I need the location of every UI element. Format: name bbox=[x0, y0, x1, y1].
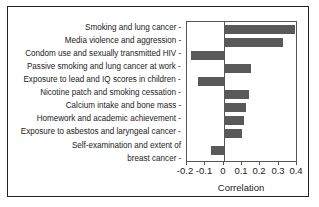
x-tick-label: -0.1 bbox=[196, 165, 212, 176]
x-tick-label: 0 bbox=[220, 165, 225, 176]
bar-condom-hiv bbox=[191, 51, 224, 60]
plot-area bbox=[186, 21, 297, 162]
category-label: Passive smoking and lung cancer at work … bbox=[27, 61, 181, 72]
x-axis-title: Correlation bbox=[218, 182, 264, 193]
bar-asbestos bbox=[224, 129, 242, 138]
bar-smoking-lung-cancer bbox=[224, 25, 295, 34]
x-tick-label: 0.2 bbox=[252, 165, 265, 176]
bar-passive-smoking bbox=[224, 64, 251, 73]
x-tick-label: 0.4 bbox=[289, 165, 302, 176]
category-label: Smoking and lung cancer - bbox=[85, 22, 181, 33]
category-label: Exposure to asbestos and laryngeal cance… bbox=[21, 126, 181, 137]
bar-homework bbox=[224, 116, 244, 125]
category-label: Condom use and sexually transmitted HIV … bbox=[25, 48, 181, 59]
x-tick-label: 0.3 bbox=[271, 165, 284, 176]
bar-calcium-bone bbox=[224, 103, 246, 112]
bar-lead-iq bbox=[198, 77, 224, 86]
category-label: Media violence and aggression - bbox=[65, 35, 181, 46]
x-tick-label: 0.1 bbox=[234, 165, 247, 176]
category-label: Exposure to lead and IQ scores in childr… bbox=[24, 74, 181, 85]
category-label: breast cancer - bbox=[127, 153, 181, 164]
category-label: Calcium intake and bone mass - bbox=[66, 100, 182, 111]
category-label: Nicotine patch and smoking cessation - bbox=[40, 87, 181, 98]
category-label: Self-examination and extent of bbox=[72, 140, 181, 151]
bar-nicotine-patch bbox=[224, 90, 249, 99]
bar-media-violence bbox=[224, 38, 283, 47]
bar-self-exam bbox=[211, 146, 224, 155]
x-tick-label: -0.2 bbox=[177, 165, 193, 176]
category-label: Homework and academic achievement - bbox=[37, 113, 181, 124]
